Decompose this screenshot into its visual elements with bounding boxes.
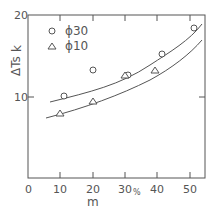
x-axis-label: m <box>87 196 99 208</box>
x-tick-20: 20 <box>86 184 100 195</box>
y-axis-unit: k <box>11 45 23 52</box>
legend-circle-icon <box>49 28 55 34</box>
x-tick-50: 50 <box>183 184 197 195</box>
series-phi10-markers <box>56 67 159 116</box>
legend-triangle-icon <box>48 43 56 49</box>
chart <box>0 0 217 210</box>
legend-label-phi10: ϕ10 <box>65 40 88 52</box>
y-tick-10: 10 <box>14 92 28 103</box>
x-tick-40: 40 <box>150 184 164 195</box>
x-tick-30: 30 <box>118 184 132 195</box>
x-axis-unit: % <box>133 189 141 197</box>
x-tick-0: 0 <box>25 184 32 195</box>
y-axis-label: ΔTs <box>10 56 22 76</box>
y-tick-20: 20 <box>14 10 28 21</box>
x-tick-10: 10 <box>53 184 67 195</box>
legend-label-phi30: ϕ30 <box>65 25 88 37</box>
plot-frame <box>28 15 205 178</box>
